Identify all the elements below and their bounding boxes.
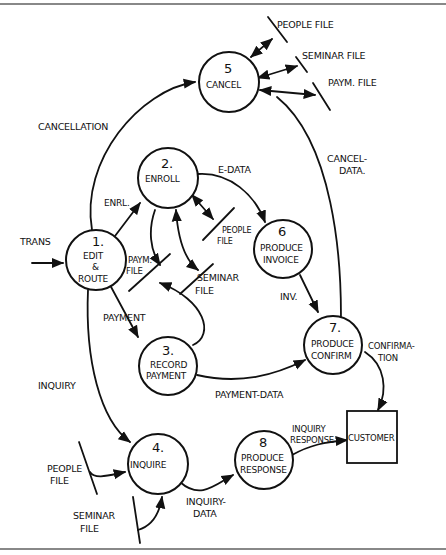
svg-text:PRODUCE: PRODUCE — [241, 453, 284, 463]
label-inquiry-data: INQUIRY- — [186, 496, 226, 507]
svg-text:FILE: FILE — [50, 475, 69, 486]
flow-payment-arrow — [110, 285, 138, 337]
flow-payment-data-arrow — [197, 360, 305, 379]
store-cancel-paym: PAYM. FILE — [328, 77, 377, 88]
flow-people-inquire — [90, 472, 125, 476]
store-enroll-seminar: SEMINAR — [197, 272, 239, 283]
store-cancel-seminar: SEMINAR FILE — [302, 50, 366, 61]
label-trans: TRANS — [19, 236, 51, 247]
label-inv: INV. — [280, 291, 297, 302]
svg-text:FILE: FILE — [195, 285, 214, 296]
label-inquiry-response: INQUIRY — [292, 424, 326, 434]
svg-text:CUSTOMER: CUSTOMER — [348, 433, 395, 443]
label-confirmation: CONFIRMA- — [368, 341, 415, 351]
svg-text:RECORD: RECORD — [150, 360, 188, 370]
svg-text:4.: 4. — [152, 440, 164, 455]
svg-text:FILE: FILE — [80, 523, 99, 534]
svg-text:DATA.: DATA. — [339, 165, 365, 176]
svg-text:PRODUCE: PRODUCE — [311, 339, 354, 349]
flow-inv-arrow — [300, 275, 318, 312]
svg-text:INVOICE: INVOICE — [263, 255, 299, 265]
flow-enroll-people — [192, 195, 213, 219]
store-inquire-seminar: SEMINAR — [73, 510, 115, 521]
svg-text:ROUTE: ROUTE — [78, 274, 109, 284]
flow-seminar-inquire — [138, 497, 162, 530]
svg-text:2.: 2. — [161, 156, 173, 171]
flow-cancel-people — [251, 39, 272, 57]
process-5[interactable]: 5 CANCEL — [199, 52, 259, 112]
label-cancellation: CANCELLATION — [38, 121, 108, 132]
process-1-number: 1. — [92, 234, 104, 249]
process-1[interactable]: 1. EDIT & ROUTE — [66, 230, 126, 290]
store-inquire-people: PEOPLE — [47, 463, 82, 474]
flow-cancel-paym — [260, 90, 315, 95]
svg-text:6: 6 — [278, 224, 286, 239]
svg-text:CANCEL: CANCEL — [206, 80, 241, 90]
process-7[interactable]: 7. PRODUCE CONFIRM — [304, 316, 362, 374]
svg-text:PRODUCE: PRODUCE — [260, 243, 303, 253]
svg-text:DATA: DATA — [193, 508, 217, 519]
svg-text:3.: 3. — [162, 343, 174, 358]
svg-text:TION: TION — [377, 353, 398, 363]
label-enrl: ENRL. — [104, 198, 130, 208]
svg-text:FILE: FILE — [126, 266, 143, 276]
store-enroll-people: PEOPLE — [222, 226, 251, 235]
label-e-data: E-DATA — [218, 164, 251, 175]
svg-text:CONFIRM: CONFIRM — [311, 351, 352, 361]
svg-text:&: & — [92, 262, 99, 272]
svg-text:RESPONSE: RESPONSE — [290, 435, 334, 445]
svg-text:INQUIRE: INQUIRE — [130, 460, 167, 470]
label-cancel-data: CANCEL- — [327, 153, 367, 164]
process-8[interactable]: 8 PRODUCE RESPONSE — [235, 431, 293, 489]
process-4[interactable]: 4. INQUIRE — [128, 434, 188, 494]
process-3[interactable]: 3. RECORD PAYMENT — [139, 337, 197, 395]
label-inquiry: INQUIRY — [38, 380, 76, 391]
svg-text:FILE: FILE — [217, 237, 233, 246]
svg-text:ENROLL: ENROLL — [145, 174, 180, 184]
label-payment: PAYMENT — [103, 312, 146, 323]
flow-e-data-arrow — [198, 174, 265, 222]
store-cancel-people: PEOPLE FILE — [277, 19, 334, 30]
process-6[interactable]: 6 PRODUCE INVOICE — [254, 220, 312, 278]
svg-text:EDIT: EDIT — [83, 251, 104, 261]
process-2[interactable]: 2. ENROLL — [138, 148, 198, 208]
data-flow-diagram: 1. EDIT & ROUTE 2. ENROLL 3. RECORD PAYM… — [0, 0, 446, 555]
entity-customer[interactable]: CUSTOMER — [347, 411, 397, 463]
svg-text:RESPONSE: RESPONSE — [240, 465, 287, 475]
flow-enroll-paym — [151, 210, 160, 265]
svg-text:7.: 7. — [329, 320, 341, 335]
svg-text:8: 8 — [259, 435, 267, 450]
flow-enroll-seminar — [176, 210, 198, 270]
flow-cancel-seminar — [258, 66, 297, 78]
svg-text:PAYMENT: PAYMENT — [146, 371, 187, 381]
svg-text:5: 5 — [224, 61, 232, 76]
label-payment-data: PAYMENT-DATA — [215, 389, 284, 400]
store-enroll-paym: PAYM. — [128, 255, 152, 265]
flow-inquiry-data-arrow — [180, 475, 233, 490]
